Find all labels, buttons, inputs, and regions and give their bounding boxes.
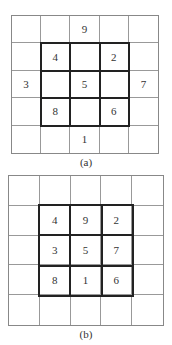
grid-cell-r3-c4	[132, 265, 163, 295]
grid-cell-r3-c1: 8	[40, 265, 71, 295]
inner-vertical-line	[69, 42, 71, 127]
grid-cell-r3-c3: 6	[100, 98, 129, 125]
grid-cell-r0-c4	[132, 176, 163, 206]
inner-horizontal-line	[38, 265, 134, 267]
grid-cell-r3-c2: 1	[71, 265, 102, 295]
grid-cell-r4-c3	[100, 126, 129, 153]
grid-cell-r4-c0	[9, 295, 40, 325]
grid-cell-r0-c1	[40, 176, 71, 206]
inner-horizontal-line	[38, 234, 134, 236]
grid-cell-r3-c4	[129, 98, 158, 125]
grid-cell-r4-c2	[71, 295, 102, 325]
grid-cell-r4-c1	[40, 295, 71, 325]
grid-cell-r0-c0	[9, 176, 40, 206]
caption-a: (a)	[0, 156, 172, 168]
grid-cell-r3-c3: 6	[101, 265, 132, 295]
grid-cell-r0-c1	[41, 16, 70, 43]
inner-horizontal-line	[40, 97, 131, 99]
grid-cell-r3-c0	[12, 98, 41, 125]
grid-cell-r1-c2: 9	[71, 206, 102, 236]
grid-cell-r0-c2	[71, 176, 102, 206]
grid-cell-r3-c1: 8	[41, 98, 70, 125]
grid-cell-r4-c3	[101, 295, 132, 325]
grid-cell-r0-c2: 9	[70, 16, 99, 43]
grid-cell-r0-c3	[100, 16, 129, 43]
grid-cell-r2-c0	[9, 236, 40, 266]
grid-cell-r4-c4	[132, 295, 163, 325]
grid-cell-r1-c1: 4	[40, 206, 71, 236]
grid-cell-r2-c0: 3	[12, 71, 41, 98]
grid-cell-r0-c0	[12, 16, 41, 43]
grid-cell-r2-c3: 7	[101, 236, 132, 266]
grid-cell-r2-c2: 5	[70, 71, 99, 98]
inner-vertical-line	[69, 204, 71, 297]
grid-cell-r1-c2	[70, 43, 99, 70]
grid-cell-r2-c3	[100, 71, 129, 98]
grid-cell-r2-c2: 5	[71, 236, 102, 266]
grid-cell-r1-c3: 2	[101, 206, 132, 236]
magic-square-grid-b: 492357816	[8, 175, 164, 326]
grid-cell-r3-c2	[70, 98, 99, 125]
grid-cell-r1-c3: 2	[100, 43, 129, 70]
grid-cell-r4-c1	[41, 126, 70, 153]
grid-cell-r4-c4	[129, 126, 158, 153]
grid-cell-r0-c3	[101, 176, 132, 206]
inner-horizontal-line	[40, 70, 131, 72]
grid-cell-r1-c0	[9, 206, 40, 236]
grid-cell-r1-c0	[12, 43, 41, 70]
grid-cell-r1-c4	[129, 43, 158, 70]
caption-b: (b)	[0, 328, 172, 340]
grid-cell-r4-c2: 1	[70, 126, 99, 153]
grid-cell-r2-c1	[41, 71, 70, 98]
grid-cell-r1-c1: 4	[41, 43, 70, 70]
grid-cell-r1-c4	[132, 206, 163, 236]
inner-vertical-line	[101, 204, 103, 297]
grid-cell-r0-c4	[129, 16, 158, 43]
inner-vertical-line	[99, 42, 101, 127]
magic-square-grid-a: 942357861	[11, 15, 159, 154]
grid-cell-r4-c0	[12, 126, 41, 153]
grid-cell-r2-c4: 7	[129, 71, 158, 98]
grid-cell-r2-c1: 3	[40, 236, 71, 266]
grid-cell-r3-c0	[9, 265, 40, 295]
grid-cell-r2-c4	[132, 236, 163, 266]
